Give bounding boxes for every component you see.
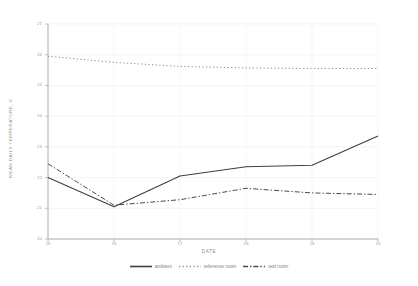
- x-tick-label: 17: [173, 241, 187, 246]
- y-tick-label: 25: [28, 82, 42, 87]
- legend-swatch-dash-dot: [243, 264, 265, 269]
- legend-label: reference room: [204, 264, 237, 269]
- y-tick-label: 23: [28, 144, 42, 149]
- y-tick-label: 24: [28, 113, 42, 118]
- x-tick-label: 16: [107, 241, 121, 246]
- y-axis-title: MEAN DAILY TEMPERATURE, C: [8, 0, 20, 78]
- y-tick-label: 22: [28, 175, 42, 180]
- chart-legend: ambientreference roomtest room: [0, 264, 418, 269]
- legend-item-reference-room[interactable]: reference room: [179, 264, 237, 269]
- legend-item-ambient[interactable]: ambient: [130, 264, 172, 269]
- x-tick-label: 19: [305, 241, 319, 246]
- chart-container: MEAN DAILY TEMPERATURE, C DATE 202122232…: [0, 0, 418, 286]
- x-tick-label: 15: [41, 241, 55, 246]
- data-series-group: [48, 56, 378, 207]
- y-tick-label: 26: [28, 52, 42, 57]
- y-tick-label: 21: [28, 205, 42, 210]
- x-tick-label: 20: [371, 241, 385, 246]
- y-tick-label: 20: [28, 236, 42, 241]
- legend-label: test room: [268, 264, 288, 269]
- chart-plot-area: [0, 0, 418, 286]
- series-line-reference-room: [48, 56, 378, 68]
- legend-item-test-room[interactable]: test room: [243, 264, 288, 269]
- legend-swatch-dotted: [179, 264, 201, 269]
- x-tick-label: 18: [239, 241, 253, 246]
- y-tick-label: 27: [28, 21, 42, 26]
- legend-swatch-solid: [130, 264, 152, 269]
- x-axis-title: DATE: [0, 249, 418, 254]
- axis-lines: [48, 24, 378, 239]
- gridlines: [48, 24, 378, 239]
- tick-marks: [45, 24, 378, 242]
- legend-label: ambient: [155, 264, 172, 269]
